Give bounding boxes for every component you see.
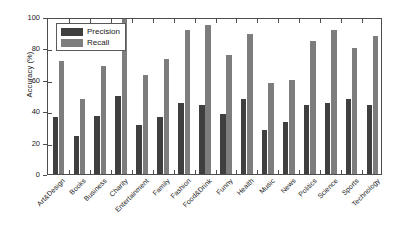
y-tick-label: 60 xyxy=(32,76,40,85)
y-tick-inner-mark xyxy=(48,113,52,114)
y-tick-label: 80 xyxy=(32,44,40,53)
x-tick-mark-top xyxy=(195,19,196,23)
x-tick-mark-bottom xyxy=(341,170,342,174)
y-tick-inner-mark xyxy=(48,82,52,83)
x-tick-mark-bottom xyxy=(236,170,237,174)
x-tick-mark-top xyxy=(320,19,321,23)
legend-label-recall: Recall xyxy=(87,38,109,47)
bar-recall-12 xyxy=(310,41,315,174)
bar-precision-6 xyxy=(178,103,183,174)
y-tick-label: 0 xyxy=(36,170,40,179)
y-tick-label: 40 xyxy=(32,107,40,116)
y-tick-inner-mark xyxy=(48,145,52,146)
bar-recall-11 xyxy=(289,80,294,174)
legend-label-precision: Precision xyxy=(87,27,120,36)
x-tick-mark-bottom xyxy=(195,170,196,174)
bar-precision-7 xyxy=(199,105,204,174)
x-tick-mark-bottom xyxy=(320,170,321,174)
bar-recall-0 xyxy=(59,61,64,174)
x-axis-label-10: Music xyxy=(258,177,276,195)
plot-area: Precision Recall xyxy=(47,18,382,175)
bar-precision-15 xyxy=(367,105,372,174)
x-tick-mark-top xyxy=(257,19,258,23)
bar-recall-4 xyxy=(143,75,148,174)
x-axis-label-14: Sports xyxy=(340,177,359,196)
x-axis-label-1: Books xyxy=(68,177,87,196)
x-tick-mark-top xyxy=(153,19,154,23)
x-axis-label-9: Health xyxy=(235,177,254,196)
x-tick-mark-top xyxy=(278,19,279,23)
bar-precision-0 xyxy=(53,117,58,174)
bar-recall-14 xyxy=(352,48,357,174)
legend-item-precision: Precision xyxy=(61,27,120,36)
bar-precision-1 xyxy=(74,136,79,174)
x-tick-mark-bottom xyxy=(69,170,70,174)
x-tick-mark-bottom xyxy=(257,170,258,174)
x-axis-label-8: Funny xyxy=(215,177,234,196)
legend-swatch-recall xyxy=(61,39,83,47)
x-tick-mark-top xyxy=(341,19,342,23)
x-tick-mark-top xyxy=(299,19,300,23)
y-axis-title: Accuracy (%) xyxy=(25,10,34,140)
bar-precision-2 xyxy=(94,116,99,174)
bar-recall-10 xyxy=(268,83,273,174)
x-tick-mark-top xyxy=(362,19,363,23)
bar-precision-11 xyxy=(283,122,288,174)
bar-precision-5 xyxy=(157,117,162,174)
bar-recall-1 xyxy=(80,99,85,174)
bar-recall-9 xyxy=(247,34,252,174)
legend-item-recall: Recall xyxy=(61,38,120,47)
x-axis-label-0: Art&Design xyxy=(36,177,66,207)
y-tick-label: 20 xyxy=(32,139,40,148)
bar-precision-13 xyxy=(325,103,330,174)
bar-chart-figure: Accuracy (%) 020406080100 Precision Reca… xyxy=(0,0,400,237)
legend: Precision Recall xyxy=(56,23,126,51)
bar-recall-13 xyxy=(331,30,336,174)
bar-precision-10 xyxy=(262,130,267,174)
bar-recall-8 xyxy=(226,55,231,174)
bar-recall-15 xyxy=(373,36,378,174)
bar-recall-7 xyxy=(205,25,210,174)
x-axis-labels: Art&DesignBooksBusinessCharityEntertainm… xyxy=(47,177,382,237)
x-tick-mark-bottom xyxy=(278,170,279,174)
x-tick-mark-bottom xyxy=(216,170,217,174)
x-tick-mark-top xyxy=(216,19,217,23)
bar-precision-4 xyxy=(136,125,141,174)
bar-recall-6 xyxy=(185,30,190,174)
bar-precision-14 xyxy=(346,99,351,174)
bar-precision-9 xyxy=(241,99,246,174)
x-tick-mark-bottom xyxy=(90,170,91,174)
bar-recall-2 xyxy=(101,66,106,174)
x-axis-label-5: Family xyxy=(151,177,171,197)
x-axis-label-12: Politics xyxy=(297,177,318,198)
x-tick-mark-bottom xyxy=(174,170,175,174)
x-tick-mark-top xyxy=(236,19,237,23)
x-tick-mark-bottom xyxy=(132,170,133,174)
bar-precision-8 xyxy=(220,114,225,174)
x-tick-mark-bottom xyxy=(362,170,363,174)
bar-recall-5 xyxy=(164,59,169,174)
y-tick-mark xyxy=(43,175,47,176)
y-tick-label: 100 xyxy=(27,13,40,22)
x-axis-label-11: News xyxy=(279,177,296,194)
x-tick-mark-bottom xyxy=(299,170,300,174)
x-tick-mark-bottom xyxy=(153,170,154,174)
legend-swatch-precision xyxy=(61,28,83,36)
x-tick-mark-top xyxy=(174,19,175,23)
x-axis-label-13: Science xyxy=(316,177,339,200)
bar-precision-3 xyxy=(115,96,120,175)
bar-precision-12 xyxy=(304,105,309,174)
x-tick-mark-bottom xyxy=(111,170,112,174)
x-tick-mark-top xyxy=(132,19,133,23)
y-tick-inner-mark xyxy=(48,50,52,51)
